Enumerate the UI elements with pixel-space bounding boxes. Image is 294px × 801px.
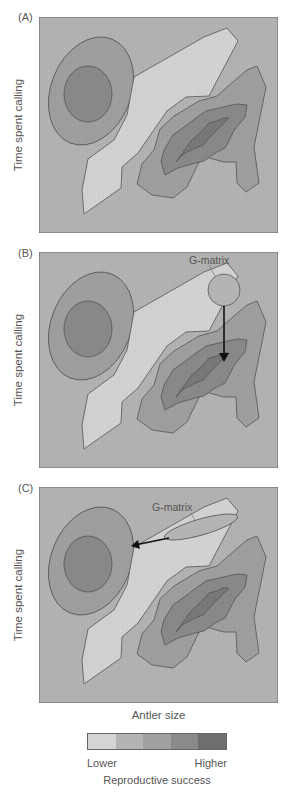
legend-swatch-4: [171, 734, 199, 749]
legend-high-label: Higher: [190, 757, 227, 769]
legend-swatch-2: [116, 734, 144, 749]
y-axis-label-a: Time spent calling: [8, 17, 28, 233]
y-axis-label-c: Time spent calling: [8, 487, 28, 703]
gmatrix-label-b: G-matrix: [189, 254, 229, 266]
legend-swatch-3: [143, 734, 171, 749]
gmatrix-circle: [208, 274, 240, 306]
color-legend: [87, 733, 227, 750]
legend-low-label: Lower: [87, 757, 117, 769]
x-axis-label: Antler size: [39, 709, 278, 721]
legend-swatch-1: [88, 734, 116, 749]
fitness-landscape-c: G-matrix: [39, 487, 278, 703]
gmatrix-label-c: G-matrix: [152, 501, 192, 513]
fitness-landscape-b: G-matrix: [39, 252, 278, 468]
legend-title: Reproductive success: [87, 774, 227, 786]
legend-swatch-5: [198, 734, 226, 749]
y-axis-label-b: Time spent calling: [8, 252, 28, 468]
fitness-landscape-a: [39, 17, 278, 233]
